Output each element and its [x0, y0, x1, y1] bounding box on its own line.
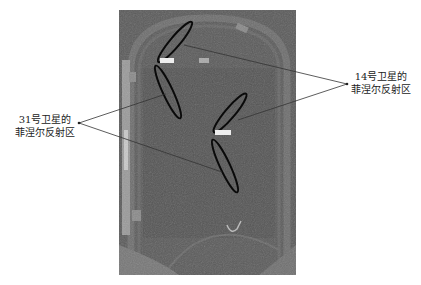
label-sat31-line2: 菲涅尔反射区 — [14, 126, 76, 139]
label-sat31-line1: 31号卫星的 — [14, 113, 76, 126]
label-sat31-fresnel-zone: 31号卫星的 菲涅尔反射区 — [14, 113, 76, 139]
label-sat14-line2: 菲涅尔反射区 — [350, 83, 412, 96]
receiver-marker-1 — [160, 58, 174, 63]
label-sat14-line1: 14号卫星的 — [350, 70, 412, 83]
fresnel-zone-sat14-2 — [210, 91, 250, 136]
label-sat14-fresnel-zone: 14号卫星的 菲涅尔反射区 — [350, 70, 412, 96]
receiver-marker-2 — [215, 130, 231, 135]
fresnel-zone-sat31-2 — [208, 138, 242, 195]
leader-origin-sat14 — [346, 83, 349, 86]
leader-origin-sat31 — [78, 122, 81, 125]
annotation-overlay — [0, 0, 421, 285]
leader-lines — [79, 45, 347, 172]
figure-caption — [150, 276, 330, 284]
fresnel-zone-sat31-1 — [151, 64, 185, 121]
